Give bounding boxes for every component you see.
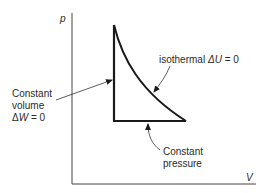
constant-volume-pointer-arrow	[56, 80, 112, 100]
isothermal-curve	[114, 25, 186, 121]
x-axis-label: V	[246, 172, 253, 183]
constant-pressure-label: Constant pressure	[163, 146, 203, 170]
isothermal-label: isothermal ΔU = 0	[159, 54, 239, 65]
y-axis-label: p	[60, 13, 66, 24]
constant-pressure-pointer-arrow	[148, 124, 160, 150]
constant-volume-label: Constant volume ΔW = 0	[12, 88, 52, 124]
isothermal-pointer-arrow	[154, 66, 170, 92]
